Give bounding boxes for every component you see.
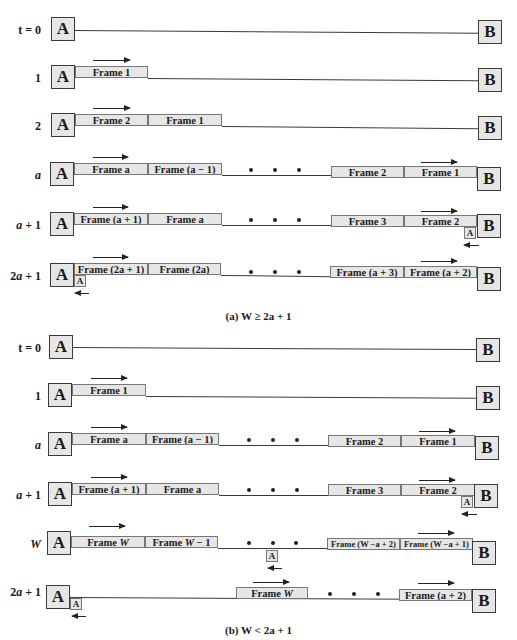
time-label: 2a + 1 — [10, 585, 41, 600]
row-b-w: W A Frame W Frame W − 1 A Frame (W −a + … — [0, 531, 517, 571]
ellipsis-dot — [273, 270, 277, 274]
frame: Frame (a − 1) — [148, 163, 222, 175]
arrow-left-icon — [462, 514, 477, 515]
link-line — [219, 445, 329, 446]
link-line — [222, 225, 332, 226]
frame: Frame 1 — [148, 114, 222, 126]
time-label: a + 1 — [16, 488, 41, 503]
arrow-left-icon — [72, 616, 86, 617]
time-label: W — [30, 537, 41, 552]
ellipsis-dot — [273, 218, 277, 222]
ellipsis-dot — [297, 218, 301, 222]
station-a: A — [47, 531, 71, 555]
frame: Frame (a + 2) — [399, 589, 472, 601]
arrow-right-icon — [91, 427, 127, 428]
row-b-2a-plus-1: 2a + 1 A A Frame W Frame (a + 2) B — [0, 579, 517, 619]
arrow-right-icon — [91, 378, 127, 379]
link-line — [221, 275, 331, 277]
link-line — [73, 347, 477, 350]
row-b-t0: t = 0 A B — [0, 335, 517, 375]
ellipsis-dot — [271, 541, 275, 545]
ack-box: A — [74, 275, 86, 287]
ellipsis-dot — [247, 488, 251, 492]
frame: Frame 1 — [75, 66, 148, 78]
frame: Frame 3 — [331, 215, 404, 227]
row-b-a: a A Frame a Frame (a − 1) Frame 2 Frame … — [0, 432, 517, 472]
link-line — [219, 495, 329, 496]
frame: Frame 2 — [401, 484, 475, 496]
ellipsis-dot — [247, 438, 251, 442]
frame: Frame W — [71, 536, 145, 548]
frame: Frame 2 — [404, 215, 477, 227]
arrow-left-icon — [75, 293, 89, 294]
ellipsis-dot — [297, 168, 301, 172]
arrow-left-icon — [268, 568, 282, 569]
station-a: A — [48, 482, 72, 506]
station-b: B — [472, 541, 496, 565]
frame: Frame (a − 1) — [146, 433, 219, 445]
arrow-right-icon — [418, 533, 454, 534]
arrow-right-icon — [89, 526, 125, 527]
link-line — [146, 396, 477, 399]
frame: Frame W − 1 — [145, 536, 218, 548]
station-b: B — [478, 20, 502, 44]
row-a-1: 1 A Frame 1 B — [0, 65, 517, 105]
frame: Frame W — [236, 587, 308, 599]
ack-box: A — [464, 227, 476, 239]
row-a-a-plus-1: a + 1 A Frame (a + 1) Frame a Frame 3 Fr… — [0, 212, 517, 252]
frame: Frame (a + 1) — [72, 483, 146, 495]
link-line — [148, 78, 479, 81]
frame: Frame a — [74, 163, 148, 175]
frame: Frame 2 — [328, 435, 401, 447]
frame: Frame 1 — [72, 384, 146, 396]
ellipsis-dot — [249, 218, 253, 222]
ellipsis-dot — [328, 592, 332, 596]
station-b: B — [477, 167, 501, 191]
row-b-1: 1 A Frame 1 B — [0, 383, 517, 423]
station-a: A — [48, 383, 72, 407]
frame: Frame 3 — [328, 484, 401, 496]
ellipsis-dot — [247, 541, 251, 545]
station-a: A — [51, 113, 75, 137]
frame: Frame (a + 1) — [74, 213, 148, 225]
station-b: B — [472, 589, 496, 613]
ack-box: A — [266, 550, 278, 562]
station-b: B — [474, 484, 498, 508]
frame: Frame 1 — [404, 166, 477, 178]
row-a-t0: t = 0 A B — [0, 17, 517, 57]
frame: Frame (W −a + 2) — [327, 538, 400, 550]
row-a-2a-plus-1: 2a + 1 A Frame (2a + 1) Frame (2a) A Fra… — [0, 263, 517, 303]
ellipsis-dot — [249, 270, 253, 274]
time-label: 1 — [35, 389, 41, 404]
caption-part-a: (a) W ≥ 2a + 1 — [0, 310, 517, 322]
arrow-right-icon — [93, 60, 130, 61]
ack-box: A — [70, 598, 82, 610]
arrow-right-icon — [421, 162, 457, 163]
time-label: t = 0 — [18, 341, 41, 356]
ellipsis-dot — [271, 488, 275, 492]
row-b-a-plus-1: a + 1 A Frame (a + 1) Frame a Frame 3 Fr… — [0, 482, 517, 522]
ellipsis-dot — [273, 168, 277, 172]
row-a-2: 2 A Frame 2 Frame 1 B — [0, 113, 517, 153]
frame: Frame 1 — [401, 435, 475, 447]
ellipsis-dot — [352, 592, 356, 596]
time-label: a — [35, 438, 41, 453]
station-a: A — [50, 212, 74, 236]
ellipsis-dot — [249, 168, 253, 172]
station-a: A — [50, 263, 74, 287]
arrow-right-icon — [93, 108, 130, 109]
time-label: 1 — [35, 71, 41, 86]
link-line — [218, 548, 328, 549]
frame: Frame (2a + 1) — [74, 263, 148, 275]
ellipsis-dot — [297, 270, 301, 274]
station-a: A — [46, 585, 70, 609]
station-b: B — [477, 214, 501, 238]
frame: Frame (a + 2) — [404, 266, 477, 278]
time-label: t = 0 — [18, 23, 41, 38]
arrow-right-icon — [253, 582, 289, 583]
ellipsis-dot — [376, 592, 380, 596]
station-a: A — [51, 65, 75, 89]
time-label: a — [35, 168, 41, 183]
arrow-right-icon — [93, 257, 128, 258]
station-a: A — [51, 17, 75, 41]
